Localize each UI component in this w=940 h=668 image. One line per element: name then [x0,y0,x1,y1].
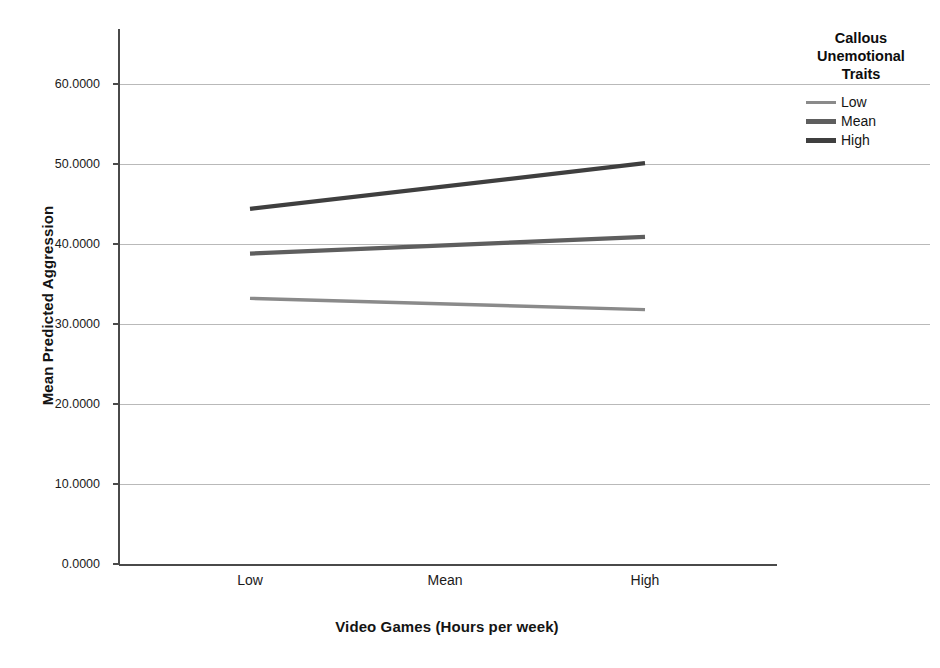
y-tick-label-40: 40.0000 [0,237,100,251]
legend-item-low[interactable]: Low [806,93,934,112]
series-line-low [250,298,645,309]
legend-swatch-low-icon [806,101,836,104]
y-tick-label-0: 0.0000 [0,557,100,571]
y-tick-label-60: 60.0000 [0,77,100,91]
series-line-mean [250,237,645,254]
x-axis-title: Video Games (Hours per week) [119,618,775,635]
y-tick-label-10: 10.0000 [0,477,100,491]
legend-title-line-2: Unemotional [788,48,934,66]
legend-items: Low Mean High [788,93,934,150]
legend-item-high[interactable]: High [806,131,934,150]
y-tick-label-30: 30.0000 [0,317,100,331]
x-tick-label-low: Low [190,572,310,588]
x-tick-label-mean: Mean [385,572,505,588]
y-tick-label-20: 20.0000 [0,397,100,411]
legend-label-high: High [841,133,870,147]
series-line-high [250,163,645,209]
y-tick-label-50: 50.0000 [0,157,100,171]
legend-label-low: Low [841,95,867,109]
legend-item-mean[interactable]: Mean [806,112,934,131]
legend: Callous Unemotional Traits Low Mean High [788,30,934,150]
legend-title-line-1: Callous [788,30,934,48]
legend-title: Callous Unemotional Traits [788,30,934,84]
legend-title-line-3: Traits [788,66,934,84]
x-tick-label-high: High [585,572,705,588]
legend-swatch-mean-icon [806,119,836,123]
data-series [250,163,645,309]
legend-label-mean: Mean [841,114,876,128]
interaction-plot-figure: Mean Predicted Aggression 60.0000 50.000… [0,0,940,668]
legend-swatch-high-icon [806,138,836,142]
